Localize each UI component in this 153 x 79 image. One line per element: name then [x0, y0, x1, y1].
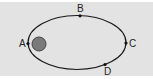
central-body-icon	[32, 37, 46, 51]
point-c-marker	[124, 41, 127, 44]
orbit-diagram: A B C D	[0, 0, 153, 79]
point-c-label: C	[129, 38, 136, 49]
point-a-label: A	[19, 38, 26, 49]
point-a-marker	[26, 42, 29, 45]
point-b-marker	[78, 14, 81, 17]
point-d: D	[103, 63, 111, 77]
point-b-label: B	[77, 3, 84, 14]
point-d-label: D	[104, 66, 111, 77]
